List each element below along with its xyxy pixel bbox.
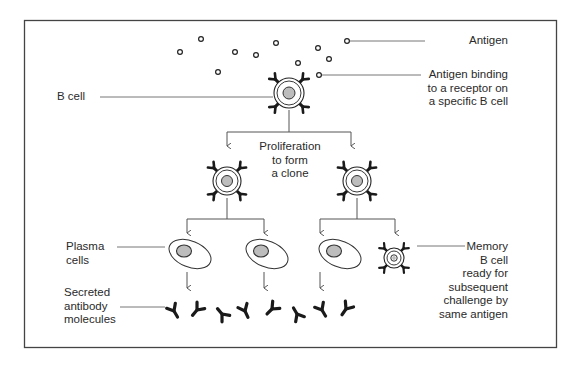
antibody-molecules <box>167 301 354 322</box>
antigen-icon <box>199 37 204 42</box>
antibody-icon <box>338 301 354 317</box>
antibody-icon <box>289 305 304 321</box>
nucleus-icon <box>352 176 363 187</box>
b-cell-clonal-selection-diagram: Antigen Antigen binding to a receptor on… <box>0 0 578 366</box>
initial-b-cell <box>269 73 309 113</box>
antigen-icon <box>345 39 350 44</box>
nucleus-icon <box>177 245 192 257</box>
plasma-cell-3 <box>315 234 366 275</box>
antibody-icon <box>189 302 205 318</box>
bound-antigen-icon <box>317 73 322 78</box>
clone-b-cell-right <box>338 162 376 200</box>
antigen-icon <box>316 46 321 51</box>
label-plasma-cells: Plasma cells <box>66 240 104 267</box>
label-secreted-antibody: Secreted antibody molecules <box>64 286 116 327</box>
memory-b-cell <box>379 243 409 273</box>
label-b-cell: B cell <box>57 90 85 104</box>
label-proliferation: Proliferation to form a clone <box>254 140 326 181</box>
antibody-icon <box>167 303 182 319</box>
nucleus-icon <box>283 87 295 99</box>
label-antigen-binding: Antigen binding to a receptor on a speci… <box>427 68 508 109</box>
nucleus-icon <box>222 176 233 187</box>
nucleus-icon <box>254 245 269 257</box>
antigen-icon <box>296 61 301 66</box>
nucleus-icon <box>327 245 342 257</box>
antibody-icon <box>238 303 253 319</box>
flow-connectors <box>187 110 395 288</box>
clone-b-cell-left <box>208 162 246 200</box>
antigen-icon <box>274 41 279 46</box>
antigen-icon <box>327 57 332 62</box>
label-antigen: Antigen <box>469 34 508 48</box>
plasma-cell-2 <box>242 234 293 275</box>
antigen-particles <box>178 37 350 75</box>
label-memory-b-cell: Memory B cell ready for subsequent chall… <box>439 240 508 321</box>
antigen-icon <box>233 50 238 55</box>
antigen-icon <box>178 50 183 55</box>
antigen-icon <box>254 53 259 58</box>
antibody-icon <box>315 302 330 318</box>
antibody-icon <box>214 305 230 321</box>
plasma-cell-1 <box>165 234 216 275</box>
antigen-icon <box>216 70 221 75</box>
antibody-icon <box>264 301 280 317</box>
